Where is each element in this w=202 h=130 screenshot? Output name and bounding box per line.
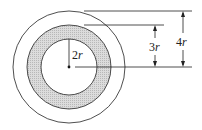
label-4r: 4r — [176, 35, 187, 49]
label-2r: 2r — [72, 48, 83, 62]
label-3r: 3r — [149, 40, 160, 54]
concentric-circles-diagram: 2r 3r 4r — [0, 0, 202, 130]
